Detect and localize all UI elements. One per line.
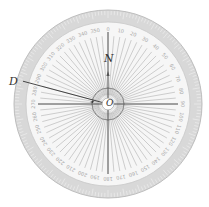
center-o-label: O (106, 99, 113, 108)
point-d-label: D (9, 76, 18, 87)
north-label: N (104, 53, 114, 64)
degree-label: 10 (117, 27, 124, 34)
compass-rose-svg: 0102030405060708090100110120130140150160… (0, 0, 209, 207)
degree-label: 180 (103, 176, 113, 182)
degree-label: 90 (180, 101, 186, 107)
degree-label: 80 (178, 87, 185, 94)
compass-diagram: 0102030405060708090100110120130140150160… (0, 0, 209, 207)
degree-label: 0 (106, 26, 109, 32)
degree-label: 270 (30, 99, 36, 109)
